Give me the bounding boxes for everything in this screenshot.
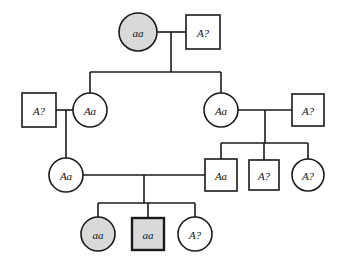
pedigree-individual-ii-2[interactable]: Aa bbox=[73, 93, 107, 127]
genotype-label: Aa bbox=[59, 170, 73, 182]
genotype-label: aa bbox=[93, 229, 105, 241]
genotype-label: A? bbox=[301, 105, 315, 117]
pedigree-diagram: aaA?A?AaAaA?AaAaA?A?aaaaA? bbox=[0, 0, 338, 269]
pedigree-individual-iv-2[interactable]: aa bbox=[132, 218, 164, 250]
pedigree-canvas: aaA?A?AaAaA?AaAaA?A?aaaaA? bbox=[0, 0, 338, 269]
pedigree-individual-ii-1[interactable]: A? bbox=[22, 93, 56, 127]
genotype-label: A? bbox=[188, 229, 202, 241]
pedigree-individual-iii-3[interactable]: A? bbox=[249, 160, 279, 190]
genotype-label: aa bbox=[133, 27, 145, 39]
genotype-label: A? bbox=[257, 170, 271, 182]
diagram-background bbox=[0, 0, 338, 269]
pedigree-individual-iv-1[interactable]: aa bbox=[81, 217, 115, 251]
pedigree-individual-iii-2[interactable]: Aa bbox=[205, 159, 237, 191]
pedigree-individual-i-2[interactable]: A? bbox=[186, 15, 220, 49]
pedigree-individual-i-1[interactable]: aa bbox=[119, 13, 157, 51]
pedigree-individual-iv-3[interactable]: A? bbox=[178, 217, 212, 251]
genotype-label: A? bbox=[301, 170, 315, 182]
genotype-label: Aa bbox=[214, 105, 228, 117]
genotype-label: aa bbox=[143, 229, 155, 241]
pedigree-individual-ii-3[interactable]: Aa bbox=[204, 93, 238, 127]
genotype-label: Aa bbox=[83, 105, 97, 117]
genotype-label: A? bbox=[32, 105, 46, 117]
pedigree-individual-iii-1[interactable]: Aa bbox=[49, 158, 83, 192]
genotype-label: A? bbox=[196, 27, 210, 39]
pedigree-individual-iii-4[interactable]: A? bbox=[292, 159, 324, 191]
genotype-label: Aa bbox=[214, 170, 228, 182]
pedigree-individual-ii-4[interactable]: A? bbox=[292, 94, 324, 126]
